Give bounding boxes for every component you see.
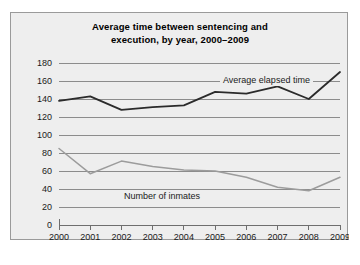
data-series-group — [59, 72, 340, 191]
x-axis-tick-label: 2002 — [111, 232, 131, 241]
x-axis-tick-label: 2007 — [268, 232, 288, 241]
y-axis-tick-label: 100 — [37, 130, 52, 140]
y-axis-tick-label: 0 — [47, 220, 52, 230]
x-axis-tick-label: 2009 — [330, 232, 349, 241]
y-axis-tick-labels: 180160140120100806040200 — [37, 58, 52, 230]
x-axis-tick-label: 2005 — [205, 232, 225, 241]
x-axis-tick-label: 2000 — [49, 232, 69, 241]
line-chart-plot: 180160140120100806040200 200020012002200… — [11, 13, 349, 241]
series-annotations-group: Average elapsed timeNumber of inmates — [121, 74, 313, 202]
x-axis-tick-label: 2001 — [80, 232, 100, 241]
x-axis-tick-label: 2004 — [174, 232, 194, 241]
y-axis-tick-label: 40 — [42, 184, 52, 194]
x-axis-tick-label: 2006 — [236, 232, 256, 241]
annotation-number-of-inmates: Number of inmates — [124, 191, 201, 201]
chart-figure: Average time between sentencing and exec… — [10, 12, 348, 240]
y-axis-tick-label: 20 — [42, 202, 52, 212]
y-axis-tick-label: 120 — [37, 112, 52, 122]
y-axis-tick-label: 160 — [37, 76, 52, 86]
annotation-average-elapsed-time: Average elapsed time — [223, 75, 310, 85]
x-axis-tick-labels: 2000200120022003200420052006200720082009 — [49, 232, 349, 241]
y-axis-tick-label: 140 — [37, 94, 52, 104]
x-axis-tick-label: 2008 — [299, 232, 319, 241]
x-axis-tickmarks — [59, 225, 340, 230]
y-axis-tick-label: 80 — [42, 148, 52, 158]
y-axis-tick-label: 60 — [42, 166, 52, 176]
series-line — [59, 149, 340, 191]
x-axis-tick-label: 2003 — [143, 232, 163, 241]
y-axis-tick-label: 180 — [37, 58, 52, 68]
